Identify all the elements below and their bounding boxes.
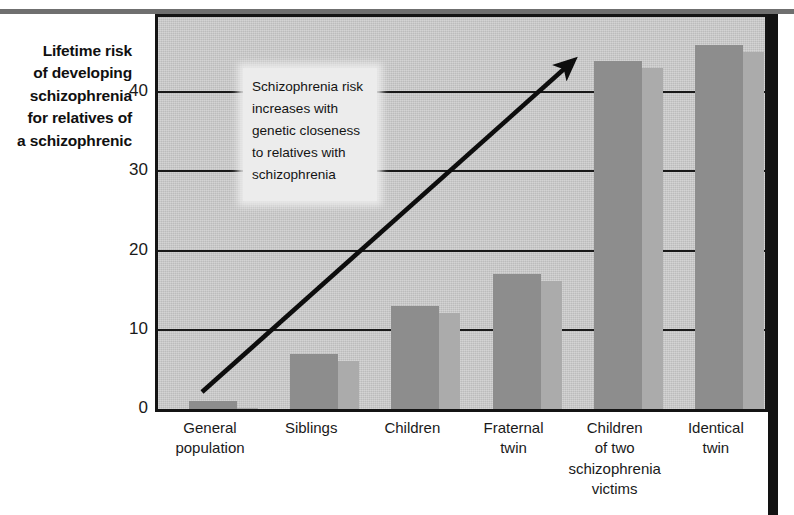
bar-shadow [541,281,562,409]
annotation-line: increases with [252,98,371,120]
x-tick-label-line: schizophrenia [560,459,670,479]
bar-body [695,45,743,409]
bar [290,354,359,409]
x-tick-label-line: twin [459,438,569,458]
annotation-line: genetic closeness [252,120,371,142]
y-tick-label: 0 [112,398,148,418]
x-tick-label: Children [357,418,467,438]
y-axis-tick-labels: 40 30 20 10 0 [108,0,148,515]
x-tick-label-line: Children [560,418,670,438]
bar-chart-plot-area: Schizophrenia risk increases with geneti… [155,14,768,412]
bar-shadow [743,52,764,409]
bar-body [189,401,237,409]
x-tick-label: Generalpopulation [155,418,265,459]
gridline [158,250,765,252]
bar-shadow [439,313,460,409]
bar-body [290,354,338,409]
bar-shadow [338,361,359,409]
bar-shadow [642,68,663,409]
x-tick-label: Identicaltwin [661,418,771,459]
bar-body [594,61,642,409]
x-tick-label: Siblings [256,418,366,438]
x-tick-label-line: Fraternal [459,418,569,438]
x-tick-label-line: twin [661,438,771,458]
x-tick-label-line: Children [357,418,467,438]
bar-shadow [237,408,258,409]
bar [391,306,460,409]
bar-body [493,274,541,409]
x-tick-label-line: Siblings [256,418,366,438]
x-axis-tick-labels: GeneralpopulationSiblingsChildrenFratern… [155,418,768,513]
y-tick-label: 40 [112,81,148,101]
gridline [158,329,765,331]
x-tick-label-line: General [155,418,265,438]
x-tick-label: Childrenof twoschizophreniavictims [560,418,670,499]
y-tick-label: 10 [112,319,148,339]
x-tick-label-line: population [155,438,265,458]
bar [594,61,663,409]
annotation-line: schizophrenia [252,164,371,186]
x-tick-label-line: of two [560,438,670,458]
y-tick-label: 20 [112,240,148,260]
bar [695,45,764,409]
x-tick-label-line: Identical [661,418,771,438]
annotation-line: to relatives with [252,142,371,164]
y-tick-label: 30 [112,160,148,180]
bar [189,401,258,409]
x-tick-label-line: victims [560,479,670,499]
annotation-callout: Schizophrenia risk increases with geneti… [243,68,377,201]
bar [493,274,562,409]
bar-body [391,306,439,409]
annotation-line: Schizophrenia risk [252,76,371,98]
x-tick-label: Fraternaltwin [459,418,569,459]
